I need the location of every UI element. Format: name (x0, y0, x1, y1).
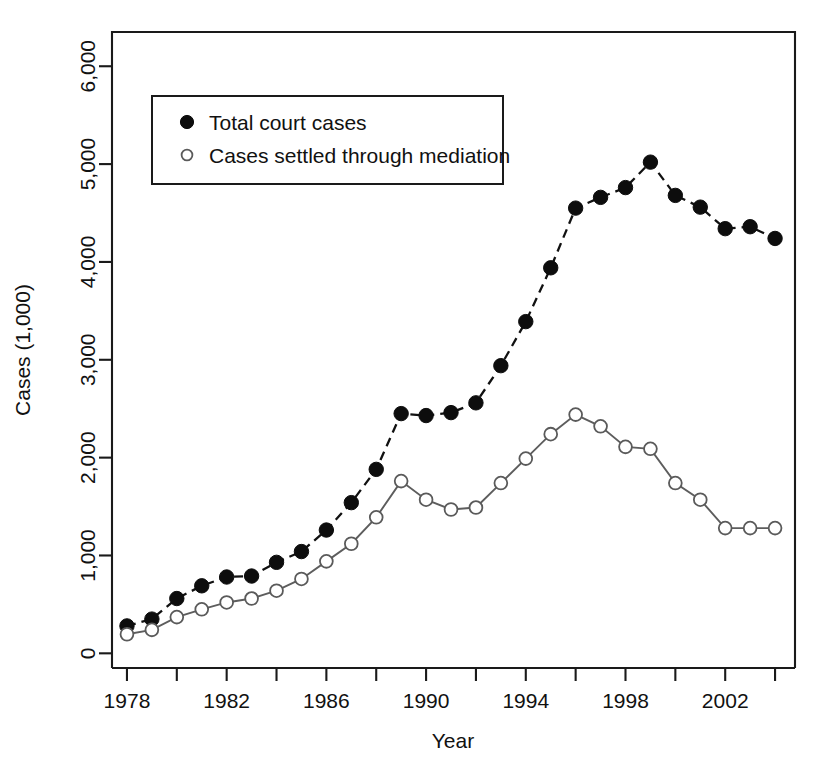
data-point-marker (121, 628, 134, 641)
data-point-marker (170, 591, 184, 605)
y-tick-label: 2,000 (77, 431, 100, 484)
data-point-marker (244, 569, 258, 583)
x-axis-ticks (127, 668, 775, 681)
x-tick-label: 1990 (403, 689, 450, 712)
x-tick-label: 1978 (104, 689, 151, 712)
x-tick-label: 1982 (203, 689, 250, 712)
data-point-marker (294, 544, 308, 558)
data-point-marker (369, 462, 383, 476)
data-point-marker (544, 261, 558, 275)
data-point-marker (718, 221, 732, 235)
series-total-court-cases (120, 155, 783, 633)
x-tick-label: 1998 (602, 689, 649, 712)
y-tick-label: 0 (77, 647, 100, 659)
x-axis-title: Year (432, 729, 474, 752)
data-point-marker (768, 231, 782, 245)
data-point-marker (419, 408, 433, 422)
data-point-marker (245, 592, 258, 605)
data-point-marker (420, 493, 433, 506)
data-point-marker (394, 406, 408, 420)
data-point-marker (618, 180, 632, 194)
data-point-marker (370, 511, 383, 524)
line-chart: 1978198219861990199419982002 01,0002,000… (0, 0, 825, 770)
data-point-marker (568, 201, 582, 215)
data-point-marker (544, 428, 557, 441)
chart-container: 1978198219861990199419982002 01,0002,000… (0, 0, 825, 770)
data-point-marker (719, 522, 732, 535)
data-series-group (120, 155, 783, 641)
legend-marker-filled-circle-icon (180, 115, 193, 128)
data-point-marker (569, 408, 582, 421)
legend-entry[interactable]: Total court cases (180, 111, 366, 134)
x-tick-label: 2002 (702, 689, 749, 712)
data-point-marker (669, 477, 682, 490)
data-point-marker (643, 155, 657, 169)
y-tick-label: 3,000 (77, 334, 100, 387)
data-point-marker (693, 200, 707, 214)
series-line (127, 162, 775, 626)
data-point-marker (220, 596, 233, 609)
data-point-marker (469, 396, 483, 410)
data-point-marker (668, 188, 682, 202)
data-point-marker (519, 452, 532, 465)
data-point-marker (145, 623, 158, 636)
data-point-marker (769, 522, 782, 535)
data-point-marker (219, 570, 233, 584)
data-point-marker (269, 555, 283, 569)
data-point-marker (344, 495, 358, 509)
data-point-marker (694, 493, 707, 506)
data-point-marker (445, 503, 458, 516)
data-point-marker (743, 220, 757, 234)
legend-box (152, 96, 503, 184)
data-point-marker (270, 584, 283, 597)
y-tick-label: 5,000 (77, 138, 100, 191)
data-point-marker (295, 573, 308, 586)
legend-label: Total court cases (209, 111, 367, 134)
y-axis-title: Cases (1,000) (11, 284, 34, 416)
y-axis-tick-labels: 01,0002,0003,0004,0005,0006,000 (77, 40, 100, 659)
data-point-marker (444, 405, 458, 419)
data-point-marker (319, 523, 333, 537)
y-tick-label: 4,000 (77, 236, 100, 289)
legend-marker-open-circle-icon (182, 150, 193, 161)
chart-legend: Total court casesCases settled through m… (152, 96, 510, 184)
data-point-marker (345, 537, 358, 550)
data-point-marker (594, 420, 607, 433)
y-tick-label: 6,000 (77, 40, 100, 93)
x-axis-tick-labels: 1978198219861990199419982002 (104, 689, 749, 712)
data-point-marker (494, 477, 507, 490)
legend-label: Cases settled through mediation (209, 144, 510, 167)
y-axis-ticks (99, 66, 112, 653)
y-tick-label: 1,000 (77, 529, 100, 582)
x-tick-label: 1986 (303, 689, 350, 712)
data-point-marker (519, 314, 533, 328)
data-point-marker (494, 358, 508, 372)
data-point-marker (320, 555, 333, 568)
data-point-marker (644, 442, 657, 455)
data-point-marker (395, 475, 408, 488)
data-point-marker (593, 190, 607, 204)
data-point-marker (619, 440, 632, 453)
data-point-marker (470, 501, 483, 514)
x-tick-label: 1994 (502, 689, 549, 712)
data-point-marker (744, 522, 757, 535)
data-point-marker (170, 611, 183, 624)
legend-entry[interactable]: Cases settled through mediation (182, 144, 511, 167)
series-cases-settled-mediation (121, 408, 782, 640)
data-point-marker (195, 579, 209, 593)
data-point-marker (195, 603, 208, 616)
